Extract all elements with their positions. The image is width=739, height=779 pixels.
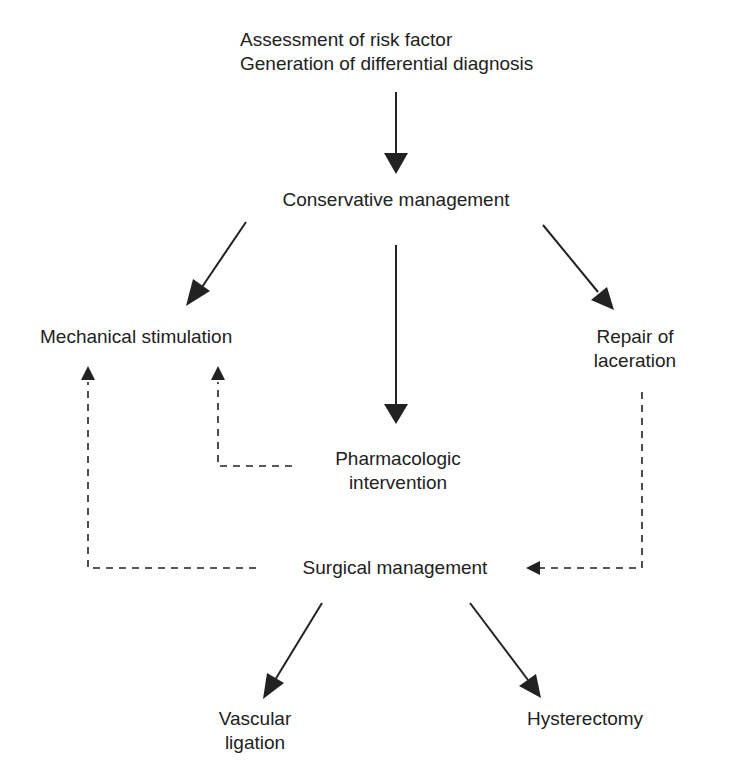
pharmacologic-line-1: Pharmacologic (318, 447, 478, 471)
arrowhead-icon (384, 153, 408, 174)
node-pharmacologic-intervention: Pharmacologic intervention (318, 447, 478, 495)
node-surgical-management: Surgical management (270, 556, 520, 580)
vascular-line-2: ligation (200, 731, 310, 755)
arrowhead-icon (519, 674, 541, 698)
dashed-arrow-repair-to-surgical (540, 392, 642, 568)
mechanical-label: Mechanical stimulation (40, 325, 232, 349)
repair-line-2: laceration (575, 349, 695, 373)
pharmacologic-line-2: intervention (318, 471, 478, 495)
conservative-label: Conservative management (246, 188, 546, 212)
node-hysterectomy: Hysterectomy (510, 707, 660, 731)
flowchart-canvas (0, 0, 739, 779)
hysterectomy-label: Hysterectomy (510, 707, 660, 731)
arrowhead-icon (186, 279, 210, 306)
arrow-conservative-to-mechanical (200, 222, 246, 290)
repair-line-1: Repair of (575, 325, 695, 349)
dashed-arrow-pharmacologic-to-mechanical (218, 382, 292, 466)
node-assessment: Assessment of risk factor Generation of … (240, 28, 533, 76)
node-repair-of-laceration: Repair of laceration (575, 325, 695, 373)
node-conservative-management: Conservative management (246, 188, 546, 212)
arrowhead-icon (263, 673, 284, 699)
arrow-surgical-to-hysterectomy (470, 603, 528, 680)
arrowhead-icon (591, 287, 614, 310)
arrow-conservative-to-repair (543, 225, 598, 292)
dashed-arrow-surgical-to-mechanical (88, 382, 256, 568)
surgical-label: Surgical management (270, 556, 520, 580)
arrowhead-icon (81, 366, 95, 380)
arrowhead-icon (211, 366, 225, 380)
vascular-line-1: Vascular (200, 707, 310, 731)
arrowhead-icon (384, 404, 408, 424)
arrowhead-icon (526, 561, 540, 575)
node-vascular-ligation: Vascular ligation (200, 707, 310, 755)
assessment-line-1: Assessment of risk factor (240, 28, 533, 52)
arrow-surgical-to-vascular (275, 603, 322, 680)
assessment-line-2: Generation of differential diagnosis (240, 52, 533, 76)
node-mechanical-stimulation: Mechanical stimulation (40, 325, 232, 349)
